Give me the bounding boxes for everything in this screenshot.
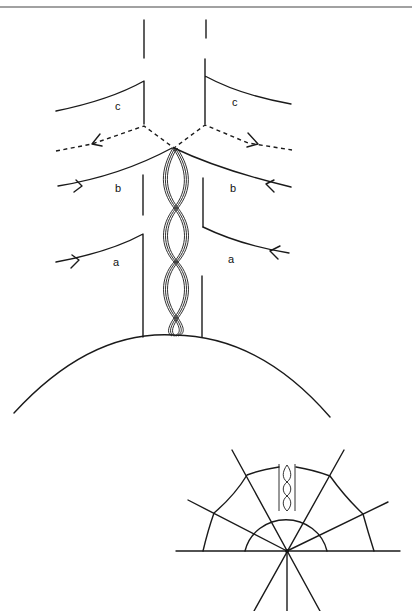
curve-b-left (58, 148, 172, 186)
curve-a-right (203, 227, 289, 253)
label-b-left: b (115, 182, 121, 194)
figure-canvas: c c b b a a (0, 0, 418, 611)
small-twist (283, 465, 291, 511)
sphere-arc (14, 335, 330, 417)
label-c-right: c (232, 96, 238, 108)
twisted-band (163, 148, 188, 336)
label-a-left: a (113, 256, 120, 268)
curve-c-left (56, 81, 144, 124)
dashed-curve (56, 125, 292, 151)
web-right (296, 467, 374, 551)
label-a-right: a (228, 253, 235, 265)
radial-lines (188, 450, 388, 611)
bottom-diagram (176, 450, 400, 611)
arrow-right-icon (247, 133, 258, 147)
center-point (285, 549, 289, 553)
arrow-left-icon (92, 134, 102, 146)
web-left (203, 467, 279, 551)
label-c-left: c (115, 100, 121, 112)
top-diagram: c c b b a a (14, 20, 330, 417)
label-b-right: b (230, 182, 236, 194)
curve-a-left (56, 234, 143, 337)
arrow-a-right-icon (270, 246, 280, 259)
curve-c-right (205, 59, 291, 124)
